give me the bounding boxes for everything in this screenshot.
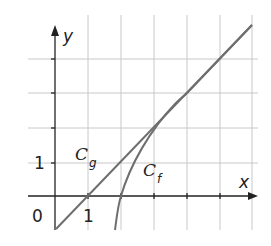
grid (28, 15, 258, 230)
origin-label: 0 (32, 206, 43, 226)
function-graph: y x 0 1 1 C g C f (0, 0, 271, 246)
y-axis-label: y (62, 26, 74, 46)
cf-label-subscript: f (157, 172, 163, 186)
cf-label: C (143, 160, 156, 180)
x-axis (28, 192, 258, 200)
x-axis-arrow-icon (248, 192, 258, 200)
x-tick-label-1: 1 (83, 206, 94, 226)
cg-label-subscript: g (89, 156, 97, 170)
y-axis-arrow-icon (51, 25, 59, 36)
y-tick-label-1: 1 (34, 153, 45, 173)
cg-label: C (75, 144, 88, 164)
x-axis-label: x (238, 172, 250, 192)
